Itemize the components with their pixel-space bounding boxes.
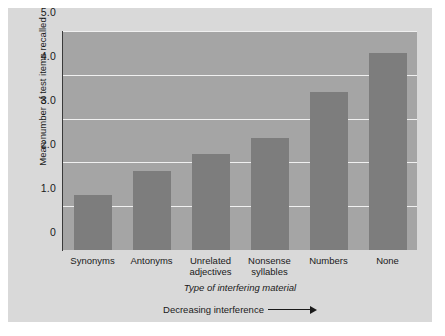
x-tick-label-antonyms: Antonyms: [124, 255, 180, 277]
x-tick-line: Nonsense: [242, 255, 298, 266]
annotation: Decreasing interference: [63, 304, 417, 315]
x-tick-label-unrelated-adjectives: Unrelated adjectives: [183, 255, 239, 277]
x-tick-line: Unrelated: [183, 255, 239, 266]
bar-synonyms[interactable]: [74, 195, 112, 250]
x-tick-labels: Synonyms Antonyms Unrelated adjectives N…: [63, 255, 417, 277]
x-tick-line: Synonyms: [65, 255, 121, 266]
x-tick-label-nonsense-syllables: Nonsense syllables: [242, 255, 298, 277]
x-tick-line: syllables: [242, 266, 298, 277]
annotation-label: Decreasing interference: [163, 304, 264, 315]
x-tick-label-synonyms: Synonyms: [65, 255, 121, 277]
bar-unrelated-adjectives[interactable]: [192, 154, 230, 250]
figure-panel: Mean number of test items recalled 0 1.0…: [8, 8, 432, 322]
bar-numbers[interactable]: [310, 92, 348, 250]
x-tick-line: None: [360, 255, 416, 266]
bar-antonyms[interactable]: [133, 171, 171, 250]
y-tick-label-1: 1.0: [22, 182, 56, 194]
bar-series: [63, 31, 417, 250]
x-tick-line: Antonyms: [124, 255, 180, 266]
y-tick-label-0: 0: [22, 226, 56, 238]
plot-area: [63, 31, 417, 250]
y-tick-label-5: 5.0: [22, 6, 56, 18]
x-tick-label-none: None: [360, 255, 416, 277]
bar-none[interactable]: [369, 53, 407, 250]
right-arrow-icon: [268, 306, 317, 314]
x-tick-line: Numbers: [301, 255, 357, 266]
x-tick-line: adjectives: [183, 266, 239, 277]
y-tick-label-2: 2.0: [22, 138, 56, 150]
bar-nonsense-syllables[interactable]: [251, 138, 289, 250]
x-axis-title: Type of interfering material: [63, 282, 417, 293]
y-tick-label-4: 4.0: [22, 50, 56, 62]
x-tick-label-numbers: Numbers: [301, 255, 357, 277]
y-tick-label-3: 3.0: [22, 94, 56, 106]
